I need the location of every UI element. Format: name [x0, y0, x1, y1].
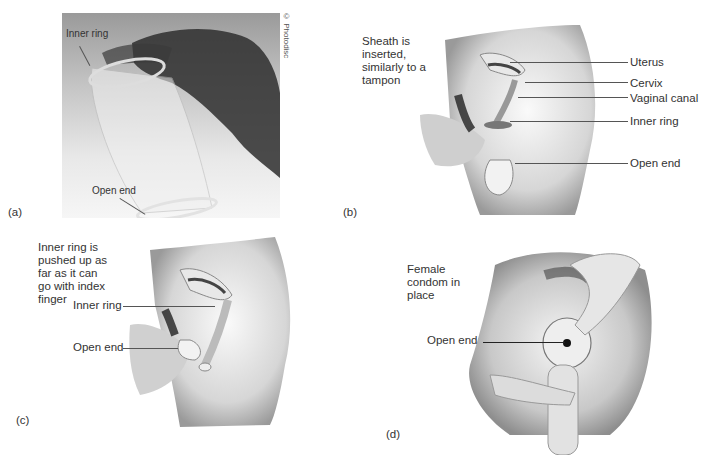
- panel-label-c: (c): [16, 414, 29, 426]
- leader-line-vaginal-canal: [518, 97, 628, 98]
- panel-label-a: (a): [8, 206, 22, 218]
- leader-line-open-end: [515, 163, 628, 164]
- label-open-end: Open end: [427, 334, 478, 347]
- leader-line-cervix: [525, 82, 628, 83]
- leader-line-open-end: [123, 348, 178, 349]
- panel-b: Sheath is inserted, similarly to a tampo…: [350, 0, 702, 225]
- leader-line-inner-ring: [510, 121, 628, 122]
- label-vaginal-canal: Vaginal canal: [630, 92, 698, 105]
- side-view-insertion-illustration: [350, 0, 702, 225]
- label-inner-ring: Inner ring: [73, 299, 122, 312]
- label-inner-ring: Inner ring: [66, 27, 108, 40]
- label-open-end: Open end: [73, 341, 124, 354]
- panel-a: © Photodisc Inner ring Open end (a): [0, 0, 350, 225]
- panel-label-d: (d): [386, 428, 400, 440]
- leader-line-uterus: [510, 62, 628, 63]
- panel-c: Inner ring is pushed up as far as it can…: [0, 225, 350, 455]
- label-uterus: Uterus: [630, 56, 664, 69]
- label-cervix: Cervix: [630, 77, 663, 90]
- label-inner-ring: Inner ring: [630, 115, 679, 128]
- panel-d: Female condom in place Open end (d): [370, 225, 702, 455]
- open-end-point: [563, 339, 571, 347]
- leader-line-inner-ring: [123, 306, 215, 307]
- label-open-end: Open end: [630, 157, 681, 170]
- label-open-end: Open end: [92, 184, 136, 197]
- photo-credit: © Photodisc: [282, 12, 291, 58]
- leader-line-open-end: [483, 342, 565, 343]
- panel-label-b: (b): [343, 206, 357, 218]
- side-view-pushing-illustration: [0, 225, 350, 455]
- frontal-view-condom-in-place-illustration: [370, 225, 702, 455]
